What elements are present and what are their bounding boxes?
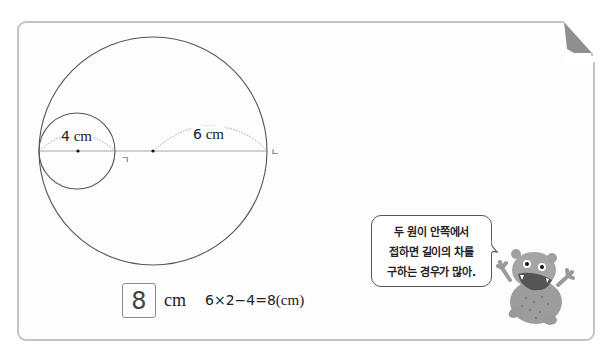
calculation-expression: 6×2−4=8 xyxy=(205,292,276,308)
speech-bubble: 두 원이 안쪽에서 접하면 길이의 차를 구하는 경우가 많아. xyxy=(371,215,492,287)
answer-box[interactable]: 8 xyxy=(122,283,156,318)
calculation-unit: (cm) xyxy=(276,292,304,308)
large-center-dot xyxy=(151,149,154,152)
speech-line-1: 두 원이 안쪽에서 xyxy=(372,223,491,243)
calculation: 6×2−4=8(cm) xyxy=(205,292,304,309)
speech-line-2: 접하면 길이의 차를 xyxy=(372,243,491,263)
point-label-giyeok: ㄱ xyxy=(121,155,129,165)
point-label-nieun: ㄴ xyxy=(271,147,279,157)
large-radius-label: 6 cm xyxy=(192,126,225,142)
answer-unit: cm xyxy=(164,290,186,311)
monster-mascot-icon xyxy=(480,240,580,330)
answer-value: 8 xyxy=(131,287,146,315)
small-radius-label: 4 cm xyxy=(60,128,93,144)
speech-line-3: 구하는 경우가 많아. xyxy=(372,263,491,283)
small-center-dot xyxy=(76,149,79,152)
